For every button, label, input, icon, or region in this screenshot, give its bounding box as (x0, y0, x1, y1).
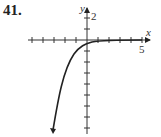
y-tick-label: 2 (91, 10, 97, 22)
curve (53, 40, 142, 130)
x-axis-label: x (145, 26, 151, 38)
graph: y 2 x 5 (0, 0, 161, 137)
y-axis-label: y (79, 2, 85, 14)
x-tick-label: 5 (139, 43, 145, 55)
curve-arrow (50, 128, 56, 134)
